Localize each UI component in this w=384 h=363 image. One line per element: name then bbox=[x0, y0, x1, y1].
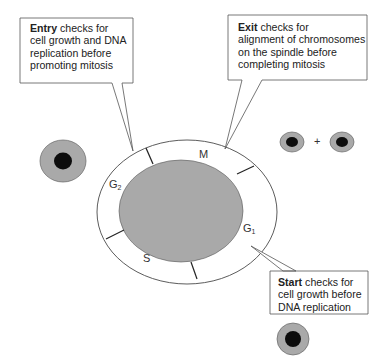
start-body: checks for bbox=[302, 276, 353, 288]
g2-cell-nucleus bbox=[54, 153, 72, 170]
phase-g1-text: G bbox=[243, 222, 252, 234]
phase-s-text: S bbox=[143, 252, 150, 264]
exit-line-3: completing mitosis bbox=[238, 58, 365, 70]
exit-title: Exit bbox=[238, 21, 257, 33]
daughter-cell-2-nucleus bbox=[336, 137, 348, 147]
exit-body: checks for bbox=[257, 21, 308, 33]
entry-title: Entry bbox=[30, 22, 57, 34]
exit-line-2: on the spindle before bbox=[238, 46, 365, 58]
start-line-2: DNA replication bbox=[278, 301, 362, 313]
phase-label-m: M bbox=[199, 148, 208, 160]
entry-body: checks for bbox=[57, 22, 108, 34]
start-callout-text: Start checks for cell growth before DNA … bbox=[278, 276, 362, 313]
entry-callout-text: Entry checks for cell growth and DNA rep… bbox=[30, 22, 127, 72]
phase-label-g1: G1 bbox=[243, 222, 255, 235]
start-line-1: cell growth before bbox=[278, 288, 362, 300]
entry-line-3: promoting mitosis bbox=[30, 59, 127, 71]
phase-label-s: S bbox=[143, 252, 150, 264]
central-cell bbox=[119, 160, 243, 262]
start-title: Start bbox=[278, 276, 302, 288]
phase-g1-subscript: 1 bbox=[252, 228, 256, 235]
plus-sign: + bbox=[314, 135, 320, 147]
g1-cell-nucleus bbox=[285, 331, 301, 347]
exit-line-1: alignment of chromosomes bbox=[238, 33, 365, 45]
entry-line-1: cell growth and DNA bbox=[30, 34, 127, 46]
exit-callout-text: Exit checks for alignment of chromosomes… bbox=[238, 21, 365, 71]
entry-line-2: replication before bbox=[30, 47, 127, 59]
phase-g2-subscript: 2 bbox=[118, 184, 122, 191]
daughter-cell-1-nucleus bbox=[286, 137, 298, 147]
phase-label-g2: G2 bbox=[109, 178, 121, 191]
phase-g2-text: G bbox=[109, 178, 118, 190]
phase-m-text: M bbox=[199, 148, 208, 160]
